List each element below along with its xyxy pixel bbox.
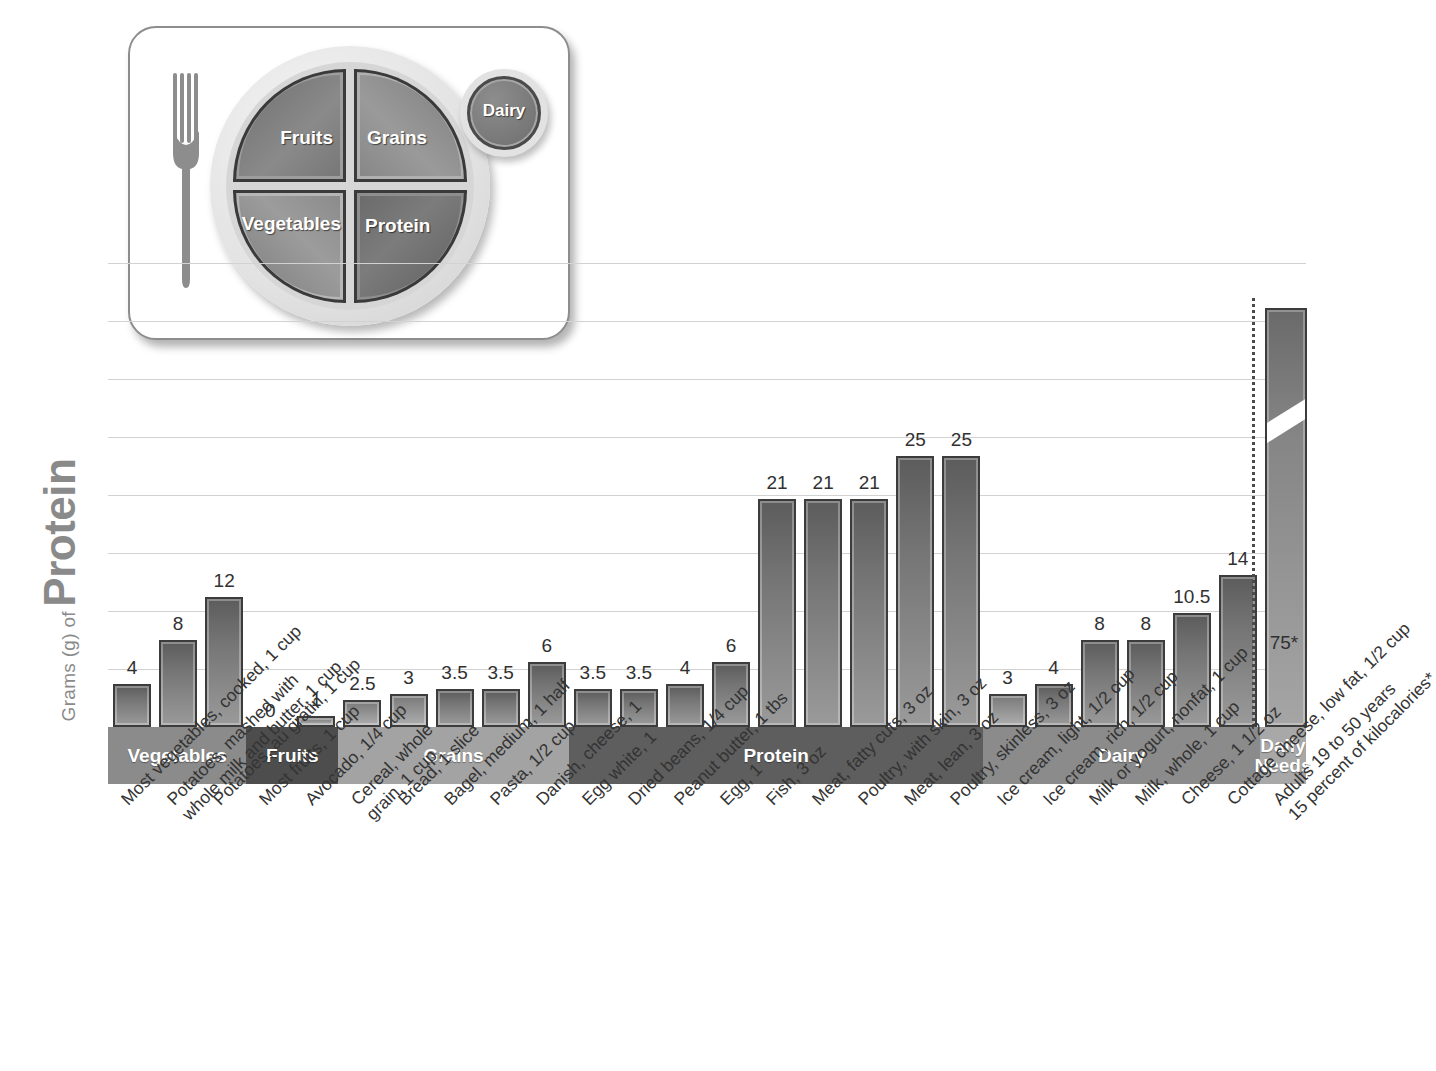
bar-value-label: 6 — [699, 635, 763, 657]
bar-value-label: 75* — [1252, 632, 1316, 654]
plate-segment-fruits-label: Fruits — [280, 127, 333, 149]
bar-value-label: 3.5 — [469, 662, 533, 684]
category-band: VegetablesFruitsGrainsProteinDairyDailyN… — [108, 727, 1306, 784]
plate-segment-vegetables-label: Vegetables — [242, 213, 341, 235]
bar[interactable] — [804, 499, 842, 727]
bar[interactable] — [666, 684, 704, 727]
category-dairy: Dairy — [983, 727, 1259, 784]
bar-value-label: 8 — [1114, 613, 1178, 635]
bar-value-label: 4 — [1022, 657, 1086, 679]
bar[interactable] — [850, 499, 888, 727]
bar-value-label: 6 — [515, 635, 579, 657]
plate-segment-fruits: Fruits — [233, 69, 346, 182]
bar-value-label: 4 — [653, 657, 717, 679]
category-grains: Grains — [338, 727, 568, 784]
bar[interactable] — [1081, 640, 1119, 727]
bar-value-label: 21 — [837, 472, 901, 494]
plate-segment-dairy: Dairy — [460, 69, 548, 157]
bar-value-label: 4 — [100, 657, 164, 679]
bar[interactable] — [1035, 684, 1073, 727]
bar[interactable] — [159, 640, 197, 727]
bar[interactable] — [297, 716, 335, 727]
bar-value-label: 12 — [192, 570, 256, 592]
category-fruits: Fruits — [246, 727, 338, 784]
category-vegetables: Vegetables — [108, 727, 246, 784]
bars-layer: 4812012.533.53.563.53.546212121252534881… — [108, 240, 1306, 727]
y-axis-title-small: Grams (g) of — [58, 611, 79, 721]
bar[interactable] — [436, 689, 474, 727]
bar[interactable] — [896, 456, 934, 727]
bar[interactable] — [1127, 640, 1165, 727]
bar[interactable] — [390, 694, 428, 727]
daily-needs-separator — [1252, 298, 1255, 727]
bar-daily-needs[interactable] — [1265, 308, 1307, 727]
plate-segment-protein-label: Protein — [365, 215, 430, 237]
bar[interactable] — [1173, 613, 1211, 727]
bar-value-label: 10.5 — [1160, 586, 1224, 608]
bar[interactable] — [620, 689, 658, 727]
bar[interactable] — [482, 689, 520, 727]
bar[interactable] — [574, 689, 612, 727]
bar[interactable] — [758, 499, 796, 727]
plate-segment-grains: Grains — [354, 69, 467, 182]
bar[interactable] — [113, 684, 151, 727]
bar[interactable] — [712, 662, 750, 727]
bar-value-label: 14 — [1206, 548, 1270, 570]
axis-break-marker — [1265, 387, 1307, 444]
y-axis-title: Grams (g) of Protein — [35, 425, 85, 755]
bar[interactable] — [343, 700, 381, 727]
y-axis-title-big: Protein — [35, 459, 84, 607]
bar-value-label: 25 — [929, 429, 993, 451]
bar[interactable] — [989, 694, 1027, 727]
plate-segment-dairy-label: Dairy — [470, 101, 538, 121]
category-daily-needs: DailyNeeds — [1260, 727, 1306, 784]
dairy-cup-inner: Dairy — [467, 76, 541, 150]
bar-value-label: 8 — [146, 613, 210, 635]
chart-plot-area: 4812012.533.53.563.53.546212121252534881… — [108, 240, 1306, 727]
category-protein: Protein — [569, 727, 984, 784]
plate-segment-grains-label: Grains — [367, 127, 427, 149]
